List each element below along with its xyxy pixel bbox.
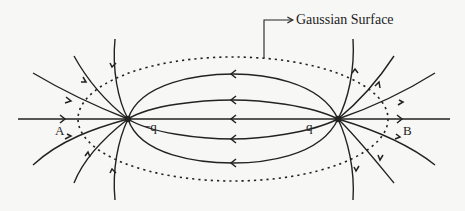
arrow-icon bbox=[81, 77, 86, 82]
dipole-diagram bbox=[0, 0, 465, 211]
charge-negative bbox=[125, 116, 131, 122]
point-a-label: A bbox=[55, 124, 64, 137]
arrow-icon bbox=[65, 97, 71, 103]
arrow-icon bbox=[375, 82, 380, 88]
field-line-right-2 bbox=[338, 56, 394, 119]
point-b-label: B bbox=[403, 124, 412, 137]
arrow-icon bbox=[378, 155, 383, 160]
field-line-left-3 bbox=[114, 39, 128, 119]
charge-positive bbox=[335, 116, 341, 122]
field-line-left-4 bbox=[33, 119, 128, 165]
callout-bracket bbox=[264, 20, 292, 58]
arrow-icon bbox=[395, 134, 400, 139]
arrow-icon bbox=[398, 100, 403, 105]
field-line-loop-outer-top bbox=[128, 74, 338, 119]
field-line-loop-inner-top bbox=[128, 100, 338, 119]
field-line-left-5 bbox=[74, 119, 128, 183]
arrow-icon bbox=[65, 134, 71, 139]
field-line-left-2 bbox=[74, 56, 128, 119]
arrow-icon bbox=[354, 166, 359, 171]
gaussian-surface-label: Gaussian Surface bbox=[296, 13, 394, 27]
field-line-left-1 bbox=[33, 73, 128, 119]
negative-charge-label: −q bbox=[143, 120, 157, 133]
positive-charge-label: q bbox=[306, 120, 313, 133]
arrow-icon bbox=[85, 152, 90, 157]
